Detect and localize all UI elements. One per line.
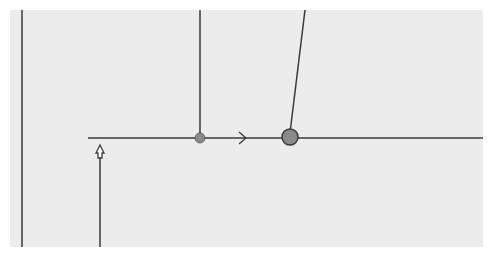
large-circle-junction bbox=[282, 129, 298, 145]
small-dot-junction bbox=[195, 133, 205, 143]
connector-diagram bbox=[0, 0, 499, 267]
hollow-up-arrow-icon bbox=[96, 145, 104, 158]
slanted-line bbox=[290, 10, 305, 133]
